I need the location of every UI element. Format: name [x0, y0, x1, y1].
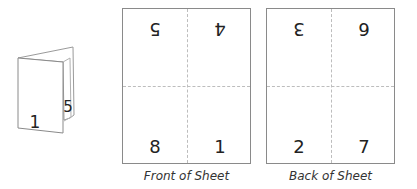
page-number-top-left: 3	[279, 19, 319, 39]
horizontal-fold-line	[123, 86, 250, 87]
page-number-top-right: 6	[344, 19, 384, 39]
back-of-sheet-caption: Back of Sheet	[266, 169, 395, 183]
page-number-bottom-left: 8	[135, 137, 175, 157]
horizontal-fold-line	[267, 86, 394, 87]
booklet-icon	[0, 0, 110, 189]
page-number-bottom-right: 7	[344, 137, 384, 157]
front-of-sheet-caption: Front of Sheet	[122, 169, 251, 183]
page-number-top-right: 4	[200, 19, 240, 39]
front-of-sheet-diagram: 5 4 8 1	[122, 8, 251, 164]
folded-booklet-illustration: 1 5	[0, 0, 110, 189]
page-number-bottom-right: 1	[200, 137, 240, 157]
booklet-inner-page-number: 5	[61, 97, 75, 117]
page-number-top-left: 5	[135, 19, 175, 39]
booklet-front-page-number: 1	[20, 112, 50, 132]
back-of-sheet-diagram: 3 6 2 7	[266, 8, 395, 164]
page-number-bottom-left: 2	[279, 137, 319, 157]
